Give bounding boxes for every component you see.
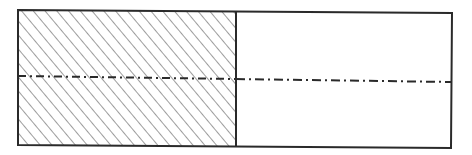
- diagram-canvas: [0, 0, 472, 155]
- center-line-right: [236, 79, 451, 82]
